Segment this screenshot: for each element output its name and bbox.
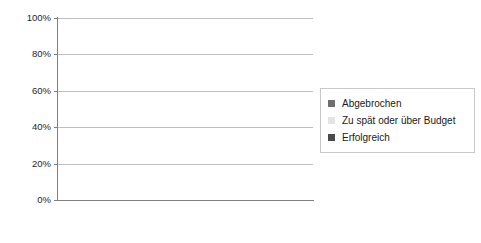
legend-item-label: Abgebrochen bbox=[342, 98, 402, 109]
y-axis-tick-label: 0% bbox=[2, 195, 51, 204]
legend-swatch-icon bbox=[328, 134, 335, 141]
legend-swatch-icon bbox=[328, 100, 335, 107]
chart-container: 100%80%60%40%20%0% Abgebrochen Zu spät o… bbox=[0, 0, 481, 243]
y-axis-tick-label: 60% bbox=[2, 86, 51, 95]
legend: Abgebrochen Zu spät oder über Budget Erf… bbox=[320, 88, 475, 153]
y-axis-tick-label: 20% bbox=[2, 159, 51, 168]
plot-area bbox=[58, 18, 313, 200]
legend-item-label: Zu spät oder über Budget bbox=[342, 115, 455, 126]
legend-item[interactable]: Zu spät oder über Budget bbox=[328, 112, 468, 129]
x-axis-line bbox=[57, 200, 314, 201]
y-axis-tick-label: 80% bbox=[2, 49, 51, 58]
y-axis-tick-label: 100% bbox=[2, 13, 51, 22]
legend-swatch-icon bbox=[328, 117, 335, 124]
legend-item[interactable]: Erfolgreich bbox=[328, 129, 468, 146]
legend-item[interactable]: Abgebrochen bbox=[328, 95, 468, 112]
y-axis-tick-label: 40% bbox=[2, 122, 51, 131]
legend-item-label: Erfolgreich bbox=[342, 132, 390, 143]
